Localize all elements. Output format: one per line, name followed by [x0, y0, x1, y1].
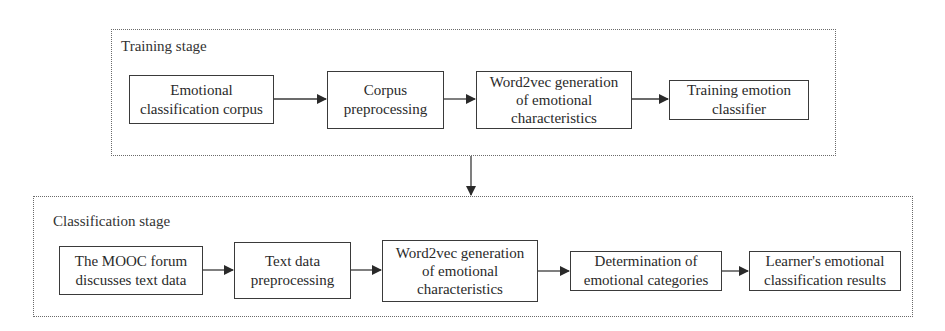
flow-arrows	[0, 0, 945, 331]
